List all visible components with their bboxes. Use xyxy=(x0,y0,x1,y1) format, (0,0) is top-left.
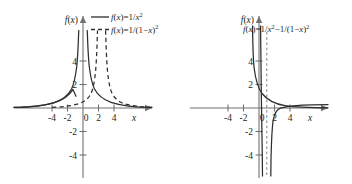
right-ytick-label-0: 4 xyxy=(248,57,253,67)
left-xtick-label-0: -4 xyxy=(48,113,56,123)
left-curve-dashed-left-branch xyxy=(52,31,98,108)
left-x-axis-label: x xyxy=(131,113,137,123)
left-xtick-label-3: 2 xyxy=(96,113,101,123)
figure-container: -4 -2 0 2 4 4 2 -2 -4 f(x) x xyxy=(0,0,352,184)
left-curve-solid-left-branch-main xyxy=(14,31,79,108)
right-ytick-label-3: -4 xyxy=(245,151,253,161)
right-panel: -4 -2 0 2 4 4 2 -2 -4 f(x) x f(x xyxy=(190,15,328,178)
left-y-axis-label: f(x) xyxy=(65,15,78,26)
right-ytick-label-2: -2 xyxy=(245,127,253,137)
left-legend: f(x)=1/x2 f(x)=1/(1−x)2 xyxy=(91,11,158,35)
legend-label-0: f(x)=1/x2 xyxy=(111,11,143,22)
right-curve-branch-left xyxy=(253,26,329,108)
left-xtick-label-1: -2 xyxy=(64,113,72,123)
right-xtick-label-1: -2 xyxy=(240,113,248,123)
right-curve-branch-middle xyxy=(261,26,263,176)
right-ytick-label-1: 2 xyxy=(248,80,253,90)
left-ytick-label-3: -4 xyxy=(69,151,77,161)
left-xtick-label-4: 4 xyxy=(112,113,117,123)
right-xtick-label-4: 4 xyxy=(288,113,293,123)
left-panel: -4 -2 0 2 4 4 2 -2 -4 f(x) x xyxy=(14,11,158,178)
right-xtick-label-0: -4 xyxy=(224,113,232,123)
right-curve-branch-right xyxy=(271,105,328,176)
right-x-axis-label: x xyxy=(307,113,313,123)
math-figure-svg: -4 -2 0 2 4 4 2 -2 -4 f(x) x xyxy=(0,0,352,184)
left-curve-solid-right-branch xyxy=(87,31,152,108)
legend-label-1: f(x)=1/(1−x)2 xyxy=(111,23,158,34)
right-equation-label: f(x)=1/x2−1/(1−x)2 xyxy=(243,23,309,34)
left-ytick-label-2: -2 xyxy=(69,127,77,137)
left-curve-dashed-right-branch xyxy=(106,31,152,108)
left-y-axis xyxy=(80,16,86,178)
left-xtick-label-2: 0 xyxy=(84,113,89,123)
